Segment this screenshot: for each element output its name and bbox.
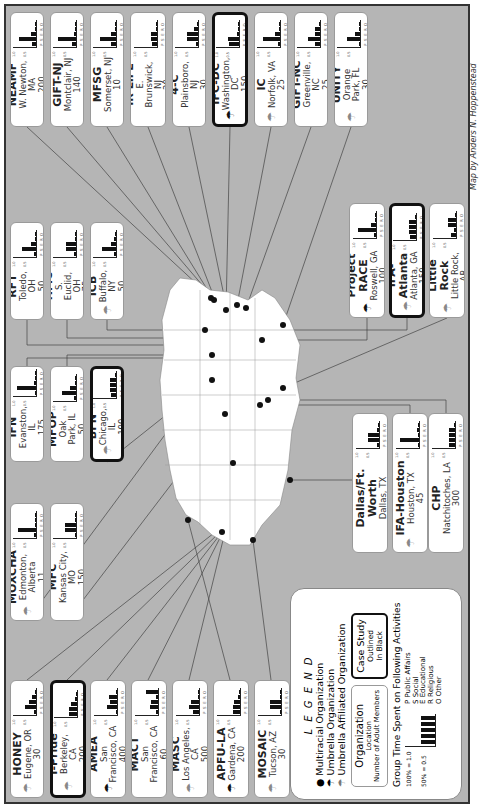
legend-umbrella-affiliated: ☂ Umbrella Affiliated Organization: [336, 597, 347, 787]
bar-r: [75, 237, 76, 241]
umbrella-outline-icon: ☂: [265, 112, 278, 122]
bar-r: [156, 695, 158, 699]
activity-bar-chart: 1.00.5PSERO: [213, 19, 247, 57]
bar-o: [455, 213, 456, 217]
bar-p: [69, 712, 77, 716]
org-location: Little Rock, AR: [451, 248, 465, 303]
org-members: 200: [79, 727, 86, 781]
bar-e: [31, 32, 36, 36]
bar-p: [114, 252, 116, 256]
org-members: 100: [379, 248, 385, 303]
org-location: Oak Park, IL: [59, 411, 77, 447]
bar-r: [449, 428, 455, 432]
bar-e: [71, 702, 77, 706]
org-card: MFCKansas City, MO1501.00.5PSERO: [50, 503, 84, 621]
bar-s: [449, 438, 455, 442]
bar-o: [418, 423, 419, 427]
bar-p: [35, 391, 36, 395]
bar-r: [35, 27, 36, 31]
activity-bar-chart: 1.00.5PSERO: [50, 17, 84, 57]
bar-s: [347, 37, 360, 41]
bar-p: [74, 396, 76, 400]
activity-bar-chart: 1.00.5PSERO: [90, 227, 124, 267]
bar-e: [315, 32, 320, 36]
bar-p: [34, 252, 36, 256]
org-card: IFA-Dallas/Ft. WorthDallas, TX1001.00.5P…: [352, 413, 388, 553]
org-card: ☂MOSAICTucson, AZ301.00.5PSERO: [254, 680, 290, 798]
org-name: APFU-Little Rock: [429, 248, 451, 303]
activity-bar-chart: 1.00.5PSERO: [429, 418, 463, 458]
bar-r: [377, 428, 379, 432]
bar-s: [58, 37, 76, 41]
bar-p: [377, 443, 379, 447]
umbrella-icon: ☂: [361, 303, 374, 313]
org-location: Berkeley, CA: [60, 727, 78, 781]
org-members: 400: [119, 725, 126, 783]
org-card: 4-CPlainsboro, NJ301.00.5PSERO: [172, 12, 206, 127]
bar-s: [66, 247, 76, 251]
bar-e: [371, 223, 376, 227]
org-location: Chicago, IL: [99, 408, 117, 445]
bar-e: [151, 700, 158, 704]
org-card: ☂IFA-AtlantaAtlanta, GA1501.00.5PSERO: [389, 203, 425, 318]
bar-p: [72, 42, 76, 46]
umbrella-outline-icon: ☂: [101, 305, 114, 315]
bar-o: [359, 22, 360, 26]
bar-o: [197, 22, 198, 26]
bar-e: [409, 225, 416, 229]
bar-s: [107, 705, 117, 709]
bar-s: [358, 228, 376, 232]
org-members: 30: [362, 57, 368, 112]
bar-s: [263, 37, 280, 41]
org-location: Kansas City, MO: [59, 548, 77, 606]
bar-r: [280, 695, 281, 699]
bar-s: [308, 37, 320, 41]
bar-o: [198, 690, 199, 694]
bar-s: [454, 228, 456, 232]
org-location: W. Newton, MA: [19, 57, 37, 112]
umbrella-outline-icon: ☂: [266, 783, 279, 793]
bar-p: [111, 42, 116, 46]
umbrella-outline-icon: ☂: [345, 112, 358, 122]
activity-bar-chart: 1.00.5PSERO: [334, 17, 368, 57]
org-card: HMCS. Euclid, OH751.00.5PSERO: [50, 222, 84, 320]
bar-p: [410, 235, 416, 239]
bar-o: [35, 513, 36, 517]
bar-e: [65, 523, 76, 527]
bar-r: [375, 218, 376, 222]
umbrella-icon: ☂: [325, 778, 336, 787]
legend-content: L E G E N D ● Multiracial Organization ☂…: [299, 597, 455, 793]
bar-e: [448, 223, 456, 227]
org-card: IR LIFEE. Brunswick, NJ201.00.5PSERO: [130, 12, 166, 127]
org-card: ☂HONEYEugene, OR301.00.5PSERO: [10, 680, 44, 798]
activity-bar-chart: 1.00.5PSERO: [50, 227, 84, 267]
org-members: 150: [241, 57, 248, 110]
bar-e: [66, 242, 76, 246]
activity-bar-chart: 1.00.5PSERO: [430, 208, 464, 248]
org-members: 10: [113, 57, 122, 112]
org-members: 150: [419, 250, 425, 301]
org-card: ☂MOXCHAEdmonton, Alberta111.00.5PSERO: [10, 503, 44, 621]
bar-p: [315, 42, 320, 46]
org-card: GIFT-NCGreenville, NC251.00.5PSERO: [294, 12, 328, 127]
org-members: 200: [38, 57, 44, 112]
bar-e: [418, 433, 419, 437]
org-members: 30: [200, 57, 206, 112]
bar-s: [62, 391, 76, 395]
bar-p: [74, 252, 76, 256]
bar-o: [75, 22, 76, 26]
bar-o: [279, 22, 280, 26]
activity-bar-chart: 1.00.5PSERO: [90, 373, 124, 408]
org-location: Orange Park, FL: [343, 57, 361, 112]
bar-s: [187, 37, 198, 41]
bar-o: [146, 690, 158, 694]
org-card: MACTSan Francisco, CA601.00.5PSERO: [131, 680, 167, 798]
bar-p: [449, 443, 455, 447]
bar-o: [75, 513, 76, 517]
umbrella-outline-icon: ☂: [401, 301, 414, 311]
org-name: IFA-Houston: [395, 458, 407, 538]
bar-p: [34, 533, 36, 537]
bar-p: [451, 233, 456, 237]
bar-e: [270, 700, 281, 704]
org-card: ☂IFC-DCWashington, DC1501.00.5PSERO: [212, 12, 248, 127]
